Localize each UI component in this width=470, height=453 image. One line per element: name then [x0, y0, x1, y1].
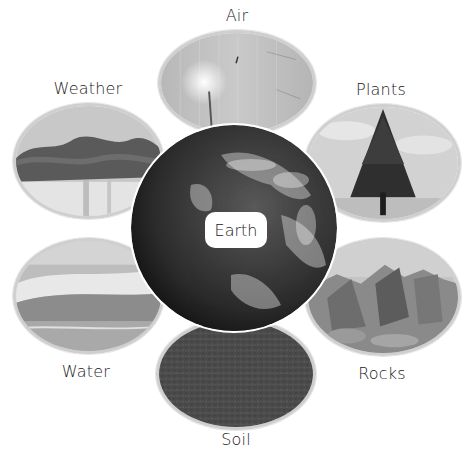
dandelion-icon	[161, 33, 313, 133]
label-weather: Weather	[54, 79, 123, 98]
soil-photo	[156, 318, 316, 430]
label-water: Water	[62, 362, 110, 381]
label-rocks: Rocks	[358, 364, 406, 383]
air-photo	[158, 30, 316, 136]
label-plants: Plants	[356, 80, 406, 99]
earth-systems-diagram: Air Plants Rocks Soil Water Weather	[0, 0, 470, 453]
label-air: Air	[226, 6, 249, 25]
label-soil: Soil	[221, 430, 251, 449]
earth-label-badge: Earth	[205, 212, 267, 248]
soil-icon	[159, 321, 313, 427]
